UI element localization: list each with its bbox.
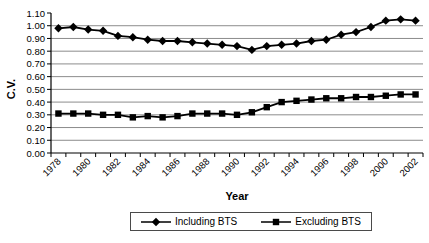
x-tick-label: 1982 [100,156,123,179]
y-tick-label: 0.30 [27,109,46,120]
x-tick-label: 1978 [40,156,63,179]
x-tick-label: 1996 [308,156,331,179]
y-tick-label: 0.90 [27,33,46,44]
data-point-excluding-bts [70,110,76,116]
data-point-including-bts [84,25,92,33]
data-point-excluding-bts [100,112,106,118]
data-point-excluding-bts [249,109,255,115]
data-point-including-bts [69,23,77,31]
x-tick-label: 1998 [338,156,361,179]
y-tick-label: 1.00 [27,20,46,31]
data-point-excluding-bts [204,110,210,116]
y-tick-label: 1.10 [27,8,46,19]
x-tick-label: 1980 [70,156,93,179]
x-tick-label: 1988 [189,156,212,179]
y-tick-label: 0.00 [27,148,46,159]
legend-label-excluding-bts: Excluding BTS [295,216,361,227]
data-point-including-bts [144,36,152,44]
data-point-including-bts [352,28,360,36]
data-point-including-bts [233,42,241,50]
data-point-excluding-bts [368,94,374,100]
data-point-excluding-bts [308,96,314,102]
y-tick-label: 0.50 [27,84,46,95]
data-point-excluding-bts [234,112,240,118]
data-point-including-bts [277,41,285,49]
legend-label-including-bts: Including BTS [175,216,237,227]
data-point-excluding-bts [55,110,61,116]
diamond-marker-icon [141,217,171,227]
cv-line-chart: C.V. 1.101.000.900.800.700.600.500.400.3… [0,0,429,243]
x-tick-label: 1990 [219,156,242,179]
legend-square-glyph [273,218,279,224]
legend-item-excluding-bts: Excluding BTS [261,216,361,227]
y-tick-label: 0.10 [27,135,46,146]
y-tick-label: 0.40 [27,97,46,108]
data-point-excluding-bts [264,104,270,110]
legend-item-including-bts: Including BTS [141,216,237,227]
y-tick-label: 0.70 [27,58,46,69]
data-point-excluding-bts [130,114,136,120]
data-point-including-bts [188,38,196,46]
data-point-excluding-bts [338,95,344,101]
data-point-excluding-bts [397,91,403,97]
x-axis-title: Year [51,190,423,202]
data-point-including-bts [322,36,330,44]
y-tick-label: 0.80 [27,46,46,57]
data-point-excluding-bts [85,110,91,116]
y-tick-label: 0.60 [27,71,46,82]
data-point-excluding-bts [323,95,329,101]
square-marker-icon [261,217,291,227]
x-tick-label: 1986 [159,156,182,179]
data-point-including-bts [396,15,404,23]
x-tick-label: 2002 [397,156,420,179]
x-tick-label: 1994 [278,156,301,179]
data-point-including-bts [382,16,390,24]
data-point-including-bts [263,42,271,50]
data-point-excluding-bts [353,94,359,100]
data-point-including-bts [218,41,226,49]
data-point-excluding-bts [219,110,225,116]
data-point-including-bts [337,30,345,38]
data-point-excluding-bts [293,98,299,104]
x-tick-label: 2000 [367,156,390,179]
data-point-including-bts [129,33,137,41]
data-point-excluding-bts [115,112,121,118]
data-point-excluding-bts [145,113,151,119]
x-tick-label: 1992 [248,156,271,179]
plot-area: 1.101.000.900.800.700.600.500.400.300.20… [0,0,429,192]
data-point-excluding-bts [278,99,284,105]
data-point-including-bts [99,27,107,35]
data-point-excluding-bts [412,91,418,97]
legend: Including BTS Excluding BTS [130,212,372,231]
data-point-excluding-bts [189,110,195,116]
data-point-including-bts [411,16,419,24]
data-point-including-bts [292,39,300,47]
data-point-including-bts [203,39,211,47]
data-point-excluding-bts [159,114,165,120]
data-point-including-bts [248,46,256,54]
y-tick-label: 0.20 [27,122,46,133]
data-point-excluding-bts [383,93,389,99]
data-point-including-bts [367,23,375,31]
legend-diamond-glyph [152,217,160,225]
data-point-excluding-bts [174,113,180,119]
x-tick-label: 1984 [129,156,152,179]
